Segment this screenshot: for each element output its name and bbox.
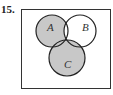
venn-diagram: A B C xyxy=(0,0,113,95)
label-a: A xyxy=(46,21,54,33)
label-c: C xyxy=(64,58,72,70)
label-b: B xyxy=(82,21,89,33)
